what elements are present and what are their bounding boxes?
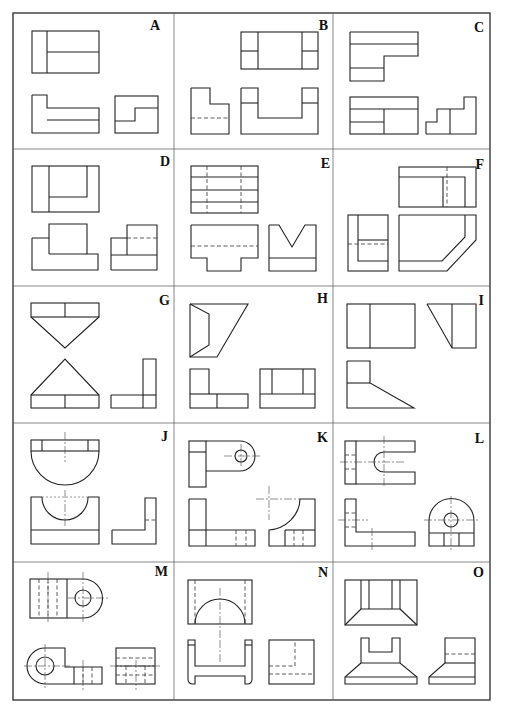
top-view xyxy=(30,572,110,622)
top-view xyxy=(189,441,262,487)
side-view xyxy=(427,304,476,348)
front-view xyxy=(31,490,99,544)
top-view xyxy=(31,303,99,348)
side-view xyxy=(424,496,480,550)
top-view xyxy=(347,361,414,408)
front-view xyxy=(399,215,476,271)
top-view xyxy=(191,166,258,213)
top-view xyxy=(190,304,248,357)
cell-h: H xyxy=(190,291,328,408)
side-view xyxy=(426,97,476,134)
front-view xyxy=(347,304,415,348)
side-view xyxy=(112,498,156,544)
cell-b: B xyxy=(191,18,328,134)
cell-n: N xyxy=(188,565,328,684)
front-view xyxy=(338,499,415,550)
side-view xyxy=(260,369,315,408)
cell-label: K xyxy=(317,430,328,445)
cell-label: I xyxy=(479,293,484,308)
cell-label: J xyxy=(161,429,168,444)
cell-f: F xyxy=(348,157,484,271)
cell-label: G xyxy=(159,293,170,308)
side-view xyxy=(115,96,158,133)
cell-label: M xyxy=(155,564,168,579)
side-view xyxy=(110,648,160,690)
top-view xyxy=(241,32,318,69)
cell-k: K xyxy=(189,430,328,546)
side-view xyxy=(348,215,388,271)
cell-i: I xyxy=(347,293,484,408)
projection-exercise-sheet: A B xyxy=(0,0,505,708)
cell-label: A xyxy=(150,18,161,33)
cell-label: N xyxy=(318,565,328,580)
side-view xyxy=(269,225,316,271)
top-view xyxy=(32,31,99,73)
cell-label: D xyxy=(160,154,170,169)
cell-e: E xyxy=(191,156,330,271)
front-view xyxy=(189,499,255,546)
side-view xyxy=(111,225,157,270)
cell-l: L xyxy=(338,431,484,550)
top-view xyxy=(31,432,99,485)
cell-g: G xyxy=(31,293,170,408)
front-view xyxy=(350,97,418,134)
top-view xyxy=(340,436,415,488)
side-view xyxy=(191,88,229,134)
cell-m: M xyxy=(24,564,168,690)
top-view xyxy=(399,167,476,207)
side-view xyxy=(256,486,315,546)
cell-a: A xyxy=(32,18,161,133)
front-view xyxy=(24,644,102,690)
front-view xyxy=(188,640,252,684)
front-view xyxy=(31,359,99,408)
cell-label: H xyxy=(317,291,328,306)
top-view xyxy=(345,580,417,625)
cell-label: L xyxy=(475,431,484,446)
side-view xyxy=(429,638,475,684)
front-view xyxy=(32,95,99,133)
cell-j: J xyxy=(31,429,168,544)
cell-label: F xyxy=(475,157,484,172)
front-view xyxy=(241,88,318,134)
front-view xyxy=(191,225,258,271)
top-view xyxy=(350,32,418,81)
cell-label: C xyxy=(474,20,484,35)
side-view xyxy=(111,359,156,408)
side-view xyxy=(269,640,314,684)
cell-o: O xyxy=(345,565,484,684)
cell-d: D xyxy=(32,154,170,270)
front-view xyxy=(32,224,98,270)
cell-label: O xyxy=(473,565,484,580)
top-view xyxy=(188,580,252,640)
cell-c: C xyxy=(350,20,484,134)
cell-label: B xyxy=(319,18,328,33)
top-view xyxy=(32,166,99,212)
front-view xyxy=(190,369,248,408)
cell-label: E xyxy=(321,156,330,171)
front-view xyxy=(345,638,417,684)
